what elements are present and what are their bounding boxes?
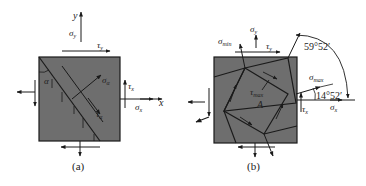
y-axis-label: y [72, 10, 78, 21]
caption-b: (b) [247, 160, 260, 173]
angle-large-label: 59°52′ [304, 41, 330, 52]
sigma-min-label: σmin [218, 36, 231, 47]
point-a-label: A [256, 99, 264, 110]
caption-a: (a) [72, 160, 85, 173]
sigma-min-arrow-lower [196, 117, 209, 122]
sigma-max-extension [320, 84, 333, 87]
sigma-y-label: σy [250, 24, 257, 35]
sigma-y-label: σy [69, 28, 76, 39]
sigma-x-label: σx [135, 102, 142, 113]
stress-diagram: y σy τy α σα τα τx x σx [0, 0, 366, 186]
figure-a: y σy τy α σα τα τx x σx [17, 10, 164, 173]
sigma-max-label: σmax [309, 72, 324, 83]
x-axis-label: x [158, 97, 164, 108]
figure-b: τmax A σy τy σmin 59°52′ σmax 14°52′ σx … [188, 24, 355, 173]
angle-small-label: 14°52′ [316, 90, 342, 101]
tau-x-label: τx [302, 104, 308, 115]
tau-y-label: τy [97, 40, 103, 51]
sigma-x-label: σx [330, 102, 337, 113]
tau-y-label: τy [266, 41, 272, 52]
angle-alpha-label: α [44, 76, 49, 86]
tau-x-label: τx [128, 81, 134, 92]
principal-direction-line [288, 33, 300, 58]
element-square-a [39, 57, 120, 141]
